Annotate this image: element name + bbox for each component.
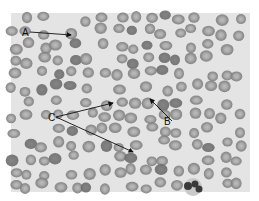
label-c: C [48, 112, 55, 123]
label-a: A [22, 27, 29, 38]
blood-smear-figure: ABC [0, 0, 259, 201]
label-b: B [164, 116, 171, 127]
